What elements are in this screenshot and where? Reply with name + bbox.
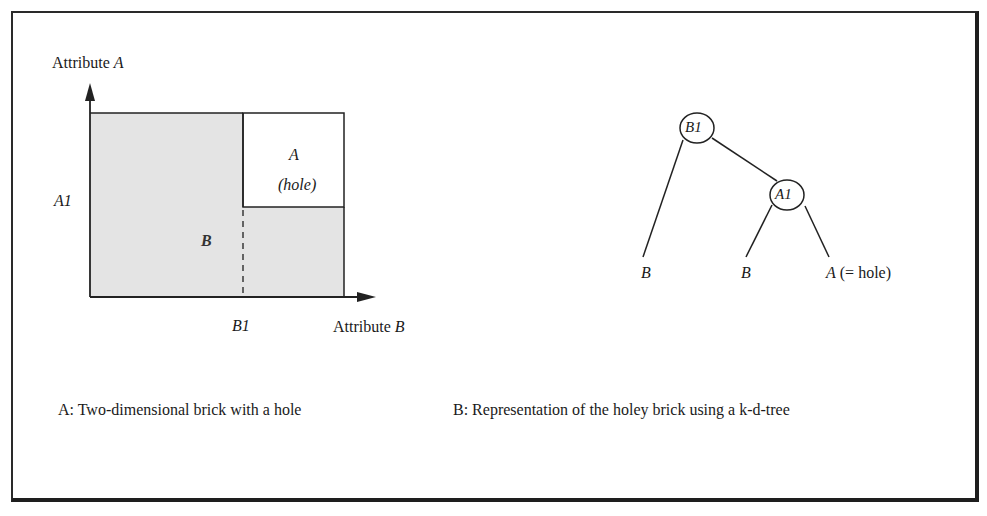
caption-b: B: Representation of the holey brick usi…: [453, 401, 790, 419]
leaf-hole: A (= hole): [826, 264, 891, 282]
y-tick-a1: A1: [54, 192, 72, 210]
region-b-label: B: [201, 232, 212, 250]
hole-sublabel: (hole): [278, 176, 316, 194]
hole-label: A: [289, 146, 299, 164]
node-a1-label: A1: [775, 186, 792, 203]
node-b1-label: B1: [685, 119, 702, 136]
brick-diagram: [85, 83, 376, 302]
y-axis-arrow-icon: [85, 83, 95, 101]
x-axis-arrow-icon: [357, 292, 376, 302]
x-axis-label: Attribute B: [333, 318, 405, 336]
kd-tree: [643, 113, 829, 257]
leaf-b-middle: B: [741, 264, 751, 282]
diagram-graphics: [0, 0, 987, 516]
x-tick-b1: B1: [232, 317, 250, 335]
y-axis-label: Attribute A: [52, 54, 124, 72]
leaf-b-left: B: [641, 264, 651, 282]
caption-a: A: Two-dimensional brick with a hole: [58, 401, 301, 419]
